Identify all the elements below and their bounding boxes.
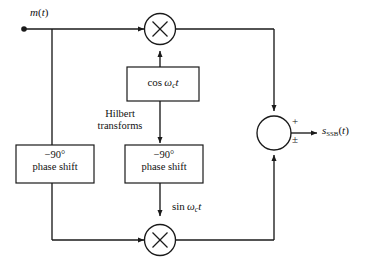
input-signal-label: m(t) [30,6,48,18]
carrier-cos-fn: cos [147,76,162,88]
carrier-cos-var: t [175,76,178,88]
phase-shift-left-line-1: −90° [16,149,94,161]
diagram-wiring-layer [0,0,367,264]
phase-shift-middle-line-1: −90° [125,149,203,161]
hilbert-line-1: Hilbert [75,108,165,120]
output-signal-label: sSSB(t) [322,124,349,137]
hilbert-transforms-annotation: Hilbert transforms [75,108,165,132]
phase-shift-left-label: −90° phase shift [16,149,94,174]
phase-shift-middle-label: −90° phase shift [125,149,203,174]
input-signal-paren-close: ) [45,6,49,18]
output-signal-subscript: SSB [326,130,338,137]
carrier-sin-label: sin ωct [172,200,201,214]
carrier-cos-label: cos ωct [127,76,199,91]
carrier-sin-fn: sin [172,200,185,212]
carrier-sin-omega: ω [187,200,195,212]
hilbert-line-2: transforms [75,120,165,132]
input-signal-m: m [30,6,38,18]
summer-circle [257,116,291,150]
carrier-sin-var: t [198,200,201,212]
summer-sign-plusminus: ± [292,133,298,145]
phase-shift-middle-line-2: phase shift [125,161,203,173]
phase-shift-left-line-2: phase shift [16,161,94,173]
output-signal-paren-close: ) [345,124,349,136]
carrier-cos-omega: ω [164,76,172,88]
ssb-modulator-diagram: m(t) Hilbert transforms −90° phase shift… [0,0,367,264]
summer-sign-positive: + [292,115,298,127]
